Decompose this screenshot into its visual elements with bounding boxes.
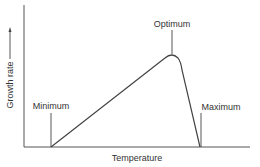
minimum-label: Minimum xyxy=(33,101,70,111)
y-axis-label: Growth rate xyxy=(5,61,15,108)
arrow-head-icon xyxy=(9,27,12,32)
maximum-label: Maximum xyxy=(201,102,240,112)
x-axis-label: Temperature xyxy=(112,153,163,163)
optimum-label: Optimum xyxy=(154,19,191,29)
growth-temperature-diagram: Minimum Optimum Maximum Temperature Grow… xyxy=(0,0,260,167)
growth-curve xyxy=(51,55,200,147)
